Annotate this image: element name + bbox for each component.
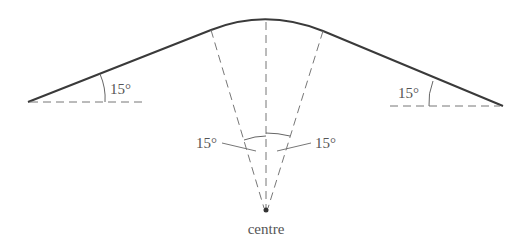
- right-angle-arc: [429, 81, 433, 106]
- left-angle-arc: [100, 74, 105, 102]
- centre-point: [264, 208, 269, 213]
- centre-right-angle-arc: [266, 133, 290, 136]
- centre-right-leader: [277, 143, 311, 151]
- left-radius: [211, 30, 264, 208]
- centre-right-angle-label: 15°: [315, 135, 336, 151]
- centre-left-leader: [222, 143, 256, 151]
- centre-left-angle-label: 15°: [196, 135, 217, 151]
- right-radius: [268, 31, 323, 208]
- left-angle-label: 15°: [110, 81, 131, 97]
- right-angle-label: 15°: [398, 85, 419, 101]
- centre-label: centre: [248, 221, 285, 237]
- centre-left-angle-arc: [244, 136, 266, 140]
- curve-diagram: 15° 15° 15° 15° centre: [0, 0, 526, 252]
